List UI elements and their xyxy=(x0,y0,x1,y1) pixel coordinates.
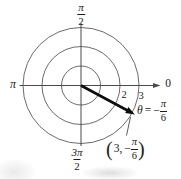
point-fraction: π 6 xyxy=(131,137,138,161)
close-paren: ) xyxy=(138,140,145,159)
radial-tick-2: 2 xyxy=(121,89,126,100)
point-label-leader-line xyxy=(127,117,131,136)
angle-label-zero: 0 xyxy=(165,78,171,90)
fraction-denominator: 6 xyxy=(160,111,167,124)
polar-plot-canvas xyxy=(0,0,181,179)
open-paren: ( xyxy=(106,140,113,159)
fraction-numerator: π xyxy=(160,99,167,111)
fraction-denominator: 2 xyxy=(77,14,85,27)
theta-fraction: π 6 xyxy=(160,99,167,123)
fraction-numerator: 3π xyxy=(70,147,83,159)
angle-label-pi-over-2: π 2 xyxy=(77,2,85,27)
angle-label-3pi-over-2: 3π 2 xyxy=(70,147,83,172)
point-coordinates-label: ( 3, − π 6 ) xyxy=(106,137,145,161)
theta-annotation: θ = − π 6 xyxy=(137,99,167,123)
fraction-numerator: π xyxy=(131,137,138,149)
fraction-denominator: 2 xyxy=(73,159,81,172)
horizontal-axis-arrowhead-icon xyxy=(153,83,161,88)
equals-sign: = xyxy=(143,105,154,117)
fraction-numerator: π xyxy=(77,2,85,14)
angle-label-pi: π xyxy=(10,78,16,90)
r-value: 3, xyxy=(113,143,125,155)
fraction-denominator: 6 xyxy=(131,149,138,162)
polar-coordinate-figure: π 2 π 0 3π 2 2 3 θ = − π 6 ( 3, − π 6 ) xyxy=(0,0,181,179)
